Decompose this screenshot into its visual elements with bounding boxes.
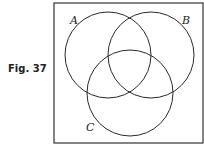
set-a-label: A [69, 14, 78, 27]
venn-diagram: A B C [0, 0, 204, 144]
set-c-label: C [86, 121, 95, 134]
set-b-label: B [181, 14, 190, 27]
